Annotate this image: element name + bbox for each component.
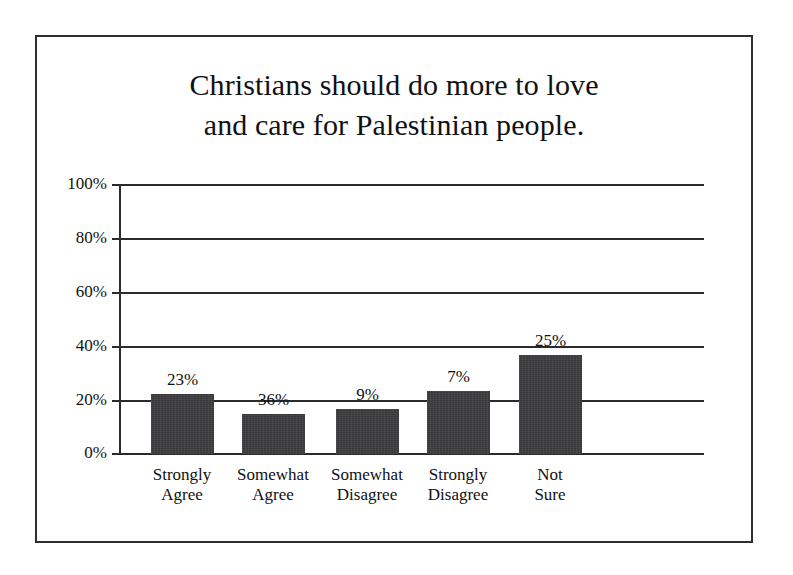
bar-strongly-disagree[interactable] bbox=[427, 391, 490, 454]
tick-mark-80 bbox=[112, 238, 119, 240]
category-label-line-2: Agree bbox=[130, 485, 234, 505]
category-label-line-2: Agree bbox=[221, 485, 325, 505]
tick-mark-40 bbox=[112, 346, 119, 348]
y-axis-line bbox=[119, 184, 121, 455]
category-label-not-sure: Not Sure bbox=[498, 465, 602, 505]
gridline-40: 40% bbox=[119, 346, 704, 348]
bar-somewhat-disagree[interactable] bbox=[336, 409, 399, 454]
category-label-strongly-disagree: Strongly Disagree bbox=[406, 465, 510, 505]
category-label-line-2: Sure bbox=[498, 485, 602, 505]
plot-area: 100% 80% 60% 40% 20% 0% 23% 36% bbox=[119, 185, 704, 454]
ytick-label-100: 100% bbox=[67, 175, 107, 192]
tick-mark-100 bbox=[112, 184, 119, 186]
bar-value-somewhat-agree: 36% bbox=[242, 391, 305, 409]
ytick-label-40: 40% bbox=[76, 337, 107, 354]
tick-mark-20 bbox=[112, 400, 119, 402]
category-label-line-1: Somewhat bbox=[221, 465, 325, 485]
chart-title-line-2: and care for Palestinian people. bbox=[37, 105, 751, 145]
bar-value-not-sure: 25% bbox=[519, 332, 582, 350]
bar-value-strongly-disagree: 7% bbox=[427, 368, 490, 386]
bar-value-somewhat-disagree: 9% bbox=[336, 386, 399, 404]
tick-mark-0 bbox=[112, 453, 119, 455]
category-label-line-1: Not bbox=[498, 465, 602, 485]
bar-somewhat-agree[interactable] bbox=[242, 414, 305, 454]
ytick-label-20: 20% bbox=[76, 391, 107, 408]
category-label-strongly-agree: Strongly Agree bbox=[130, 465, 234, 505]
ytick-label-0: 0% bbox=[84, 444, 107, 461]
bar-strongly-agree[interactable] bbox=[151, 394, 214, 454]
ytick-label-80: 80% bbox=[76, 229, 107, 246]
tick-mark-60 bbox=[112, 292, 119, 294]
gridline-60: 60% bbox=[119, 292, 704, 294]
gridline-100: 100% bbox=[119, 184, 704, 186]
category-label-somewhat-disagree: Somewhat Disagree bbox=[315, 465, 419, 505]
ytick-label-60: 60% bbox=[76, 283, 107, 300]
bar-value-strongly-agree: 23% bbox=[151, 371, 214, 389]
bar-not-sure[interactable] bbox=[519, 355, 582, 454]
category-label-line-1: Somewhat bbox=[315, 465, 419, 485]
category-label-line-1: Strongly bbox=[406, 465, 510, 485]
category-label-line-2: Disagree bbox=[406, 485, 510, 505]
category-label-line-1: Strongly bbox=[130, 465, 234, 485]
gridline-80: 80% bbox=[119, 238, 704, 240]
chart-title: Christians should do more to love and ca… bbox=[37, 65, 751, 145]
chart-frame: Christians should do more to love and ca… bbox=[35, 35, 753, 543]
chart-title-line-1: Christians should do more to love bbox=[37, 65, 751, 105]
category-label-somewhat-agree: Somewhat Agree bbox=[221, 465, 325, 505]
category-label-line-2: Disagree bbox=[315, 485, 419, 505]
